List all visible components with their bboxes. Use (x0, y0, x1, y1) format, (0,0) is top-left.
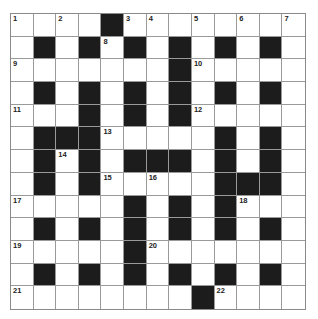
entry-cell[interactable] (260, 105, 283, 128)
entry-cell[interactable] (147, 127, 170, 150)
entry-cell[interactable] (34, 14, 57, 37)
entry-cell[interactable] (34, 196, 57, 219)
entry-cell[interactable] (192, 37, 215, 60)
entry-cell[interactable] (147, 286, 170, 309)
entry-cell[interactable] (237, 264, 260, 287)
entry-cell[interactable] (101, 218, 124, 241)
entry-cell[interactable] (169, 241, 192, 264)
entry-cell[interactable] (169, 127, 192, 150)
entry-cell[interactable] (282, 173, 305, 196)
entry-cell[interactable] (282, 59, 305, 82)
entry-cell[interactable] (34, 105, 57, 128)
entry-cell[interactable]: 16 (147, 173, 170, 196)
entry-cell[interactable] (260, 59, 283, 82)
entry-cell[interactable] (56, 105, 79, 128)
entry-cell[interactable] (56, 241, 79, 264)
entry-cell[interactable] (147, 82, 170, 105)
entry-cell[interactable] (147, 218, 170, 241)
entry-cell[interactable] (56, 196, 79, 219)
entry-cell[interactable] (79, 241, 102, 264)
entry-cell[interactable] (101, 264, 124, 287)
entry-cell[interactable] (11, 173, 34, 196)
entry-cell[interactable]: 22 (215, 286, 238, 309)
entry-cell[interactable]: 18 (237, 196, 260, 219)
entry-cell[interactable]: 9 (11, 59, 34, 82)
entry-cell[interactable] (124, 127, 147, 150)
entry-cell[interactable] (237, 286, 260, 309)
entry-cell[interactable]: 10 (192, 59, 215, 82)
entry-cell[interactable] (56, 173, 79, 196)
entry-cell[interactable] (101, 150, 124, 173)
entry-cell[interactable] (215, 105, 238, 128)
entry-cell[interactable] (101, 82, 124, 105)
entry-cell[interactable] (101, 59, 124, 82)
entry-cell[interactable] (260, 196, 283, 219)
entry-cell[interactable] (192, 264, 215, 287)
entry-cell[interactable] (11, 127, 34, 150)
entry-cell[interactable]: 13 (101, 127, 124, 150)
entry-cell[interactable] (79, 196, 102, 219)
entry-cell[interactable] (282, 218, 305, 241)
entry-cell[interactable] (237, 127, 260, 150)
entry-cell[interactable]: 11 (11, 105, 34, 128)
entry-cell[interactable]: 12 (192, 105, 215, 128)
entry-cell[interactable] (260, 286, 283, 309)
entry-cell[interactable] (79, 59, 102, 82)
entry-cell[interactable] (11, 37, 34, 60)
entry-cell[interactable] (282, 286, 305, 309)
entry-cell[interactable] (124, 59, 147, 82)
entry-cell[interactable] (282, 37, 305, 60)
entry-cell[interactable] (101, 105, 124, 128)
entry-cell[interactable] (56, 37, 79, 60)
entry-cell[interactable] (101, 286, 124, 309)
entry-cell[interactable] (169, 173, 192, 196)
entry-cell[interactable] (237, 105, 260, 128)
entry-cell[interactable] (282, 82, 305, 105)
entry-cell[interactable]: 21 (11, 286, 34, 309)
entry-cell[interactable]: 5 (192, 14, 215, 37)
entry-cell[interactable] (11, 82, 34, 105)
entry-cell[interactable] (237, 82, 260, 105)
entry-cell[interactable] (11, 218, 34, 241)
entry-cell[interactable] (147, 59, 170, 82)
entry-cell[interactable]: 20 (147, 241, 170, 264)
entry-cell[interactable] (34, 241, 57, 264)
entry-cell[interactable] (169, 14, 192, 37)
entry-cell[interactable] (282, 105, 305, 128)
entry-cell[interactable] (147, 264, 170, 287)
entry-cell[interactable]: 2 (56, 14, 79, 37)
entry-cell[interactable] (124, 286, 147, 309)
entry-cell[interactable] (56, 286, 79, 309)
entry-cell[interactable] (101, 196, 124, 219)
entry-cell[interactable] (124, 173, 147, 196)
entry-cell[interactable] (215, 241, 238, 264)
entry-cell[interactable] (56, 264, 79, 287)
entry-cell[interactable] (56, 82, 79, 105)
entry-cell[interactable] (282, 241, 305, 264)
entry-cell[interactable]: 3 (124, 14, 147, 37)
entry-cell[interactable] (192, 241, 215, 264)
entry-cell[interactable] (11, 264, 34, 287)
entry-cell[interactable] (282, 264, 305, 287)
entry-cell[interactable] (147, 105, 170, 128)
entry-cell[interactable] (11, 150, 34, 173)
entry-cell[interactable] (215, 59, 238, 82)
entry-cell[interactable] (260, 241, 283, 264)
entry-cell[interactable]: 14 (56, 150, 79, 173)
entry-cell[interactable] (192, 196, 215, 219)
entry-cell[interactable] (56, 59, 79, 82)
entry-cell[interactable] (192, 82, 215, 105)
entry-cell[interactable] (260, 14, 283, 37)
entry-cell[interactable] (237, 241, 260, 264)
entry-cell[interactable] (147, 37, 170, 60)
entry-cell[interactable]: 19 (11, 241, 34, 264)
entry-cell[interactable] (282, 127, 305, 150)
entry-cell[interactable] (34, 59, 57, 82)
entry-cell[interactable] (215, 14, 238, 37)
entry-cell[interactable] (237, 59, 260, 82)
entry-cell[interactable]: 4 (147, 14, 170, 37)
entry-cell[interactable] (79, 14, 102, 37)
entry-cell[interactable] (56, 218, 79, 241)
entry-cell[interactable] (192, 150, 215, 173)
entry-cell[interactable] (282, 196, 305, 219)
